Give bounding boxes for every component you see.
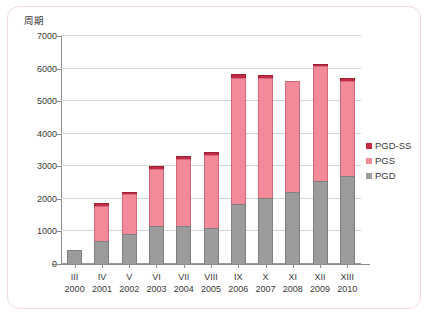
legend-swatch-icon [366,158,372,164]
y-axis-tick-label: 3000 [17,161,57,171]
y-axis-tick-label: 1000 [17,226,57,236]
bar-segment-pgd [313,181,328,264]
bar-segment-pgd [258,198,273,264]
bar-segment-pgs [285,81,300,192]
x-axis-tick-mark [266,264,267,268]
bar-segment-pgd [204,228,219,264]
x-tick-roman: XIII [324,271,370,283]
bar-stack [258,75,273,264]
chart-legend: PGD-SSPGSPGD [366,140,411,185]
bar-segment-pgs [176,159,191,226]
bar-segment-pgs [340,81,355,176]
x-axis-tick-mark [184,264,185,268]
bar-segment-pgd [231,204,246,264]
x-axis-tick-mark [211,264,212,268]
legend-swatch-icon [366,173,372,179]
plot-area [61,36,361,264]
x-axis-tick-mark [238,264,239,268]
y-axis-title: 周期 [24,13,44,27]
y-axis-tick-label: 6000 [17,64,57,74]
bar-stack [313,64,328,264]
bar-segment-pgs [258,78,273,198]
chart-figure: 周期 01000200030004000500060007000 III2000… [0,0,428,316]
bar-segment-pgs [313,66,328,181]
legend-swatch-icon [366,143,372,149]
legend-item: PGD [366,170,411,181]
bar-segment-pgs [231,78,246,204]
bar-segment-pgd [340,176,355,264]
bar-segment-pgd [149,226,164,264]
bar-stack [176,156,191,264]
x-axis-tick-mark [129,264,130,268]
x-axis-tick-mark [320,264,321,268]
x-axis-tick-mark [156,264,157,268]
legend-label: PGD-SS [375,140,411,151]
x-axis-tick-label: XIII2010 [324,271,370,295]
bar-segment-pgd [67,250,82,264]
y-axis-tick-mark [56,264,61,265]
legend-label: PGS [375,155,395,166]
gridline [61,35,361,36]
y-axis-tick-label: 5000 [17,96,57,106]
y-axis-tick-label: 7000 [17,31,57,41]
bar-segment-pgd [122,234,137,264]
bar-stack [231,74,246,264]
legend-label: PGD [375,170,396,181]
bar-segment-pgs [204,155,219,228]
y-axis-tick-label: 2000 [17,194,57,204]
x-tick-year: 2010 [324,283,370,295]
bar-segment-pgs [122,194,137,233]
bar-stack [67,250,82,264]
bar-segment-pgd [94,241,109,264]
x-axis-tick-mark [293,264,294,268]
bar-stack [285,81,300,264]
bar-stack [340,78,355,264]
legend-item: PGD-SS [366,140,411,151]
bar-segment-pgs [149,169,164,226]
bar-segment-pgd [176,226,191,264]
y-axis-tick-label: 0 [17,259,57,269]
legend-item: PGS [366,155,411,166]
bar-stack [204,152,219,264]
x-axis-tick-mark [347,264,348,268]
x-axis-tick-mark [102,264,103,268]
bar-segment-pgd [285,192,300,264]
y-axis-tick-label: 4000 [17,129,57,139]
x-axis-tick-mark [75,264,76,268]
bar-stack [149,166,164,264]
bar-stack [122,192,137,264]
bar-segment-pgs [94,206,109,241]
bar-stack [94,203,109,264]
